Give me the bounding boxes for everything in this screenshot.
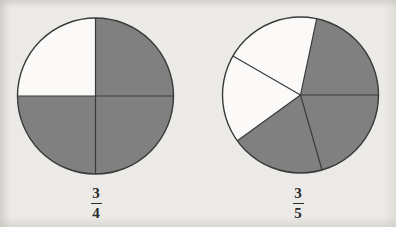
- pie-sector-shaded: [18, 96, 96, 174]
- fraction-figure-three-fourths: 3 4: [0, 0, 198, 227]
- pie-sector-shaded: [96, 18, 174, 96]
- pie-sector-shaded: [96, 96, 174, 174]
- pie-sector-unshaded: [18, 18, 96, 96]
- fraction-figure-three-fifths: 3 5: [198, 0, 396, 227]
- fraction-bar: [91, 203, 102, 205]
- fraction-numerator: 3: [82, 186, 110, 201]
- fraction-bar: [293, 203, 304, 205]
- fraction-label-three-fifths: 3 5: [284, 186, 312, 221]
- fraction-label-three-fourths: 3 4: [82, 186, 110, 221]
- fraction-denominator: 4: [82, 206, 110, 221]
- fraction-denominator: 5: [284, 206, 312, 221]
- pie-chart-three-fifths: [198, 0, 396, 185]
- pie-chart-three-fourths: [0, 0, 198, 185]
- fraction-numerator: 3: [284, 186, 312, 201]
- worksheet-canvas: 3 4 3 5: [0, 0, 396, 227]
